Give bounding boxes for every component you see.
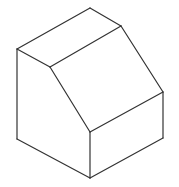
isometric-solid-drawing: [0, 0, 179, 187]
